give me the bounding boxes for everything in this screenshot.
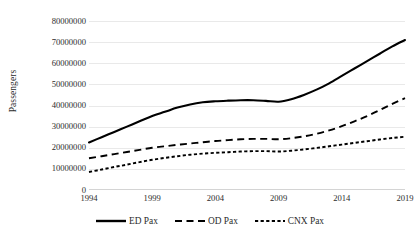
- line-chart: Passengers 01000000020000000300000004000…: [0, 0, 420, 246]
- y-tick-label: 0: [8, 186, 86, 195]
- chart-legend: ED PaxOD PaxCNX Pax: [0, 216, 420, 226]
- legend-item-cnx-pax[interactable]: CNX Pax: [255, 216, 324, 226]
- series-layer: [89, 21, 405, 190]
- legend-label: ED Pax: [129, 216, 158, 226]
- series-line-cnx-pax: [89, 137, 405, 172]
- x-tick-label: 1994: [64, 194, 114, 203]
- y-tick-label: 40000000: [8, 101, 86, 110]
- series-line-od-pax: [89, 98, 405, 158]
- y-tick-label: 10000000: [8, 164, 86, 173]
- x-tick-label: 1999: [127, 194, 177, 203]
- legend-label: OD Pax: [208, 216, 238, 226]
- series-line-ed-pax: [89, 40, 405, 142]
- legend-label: CNX Pax: [288, 216, 324, 226]
- x-tick-label: 2004: [190, 194, 240, 203]
- y-tick-label: 50000000: [8, 80, 86, 89]
- legend-item-od-pax[interactable]: OD Pax: [175, 216, 238, 226]
- y-tick-label: 20000000: [8, 143, 86, 152]
- x-axis-tick-labels: 199419992004200920142019: [89, 194, 405, 208]
- x-tick-label: 2019: [380, 194, 420, 203]
- legend-item-ed-pax[interactable]: ED Pax: [96, 216, 158, 226]
- x-tick-label: 2009: [254, 194, 304, 203]
- x-tick-label: 2014: [317, 194, 367, 203]
- legend-swatch-dashed-icon: [175, 216, 205, 226]
- y-tick-label: 70000000: [8, 38, 86, 47]
- y-axis-tick-labels: 0100000002000000030000000400000005000000…: [8, 0, 86, 246]
- y-tick-label: 30000000: [8, 122, 86, 131]
- y-tick-label: 80000000: [8, 17, 86, 26]
- legend-swatch-dotted-icon: [255, 216, 285, 226]
- plot-area: [89, 21, 405, 190]
- legend-swatch-solid-icon: [96, 216, 126, 226]
- y-tick-label: 60000000: [8, 59, 86, 68]
